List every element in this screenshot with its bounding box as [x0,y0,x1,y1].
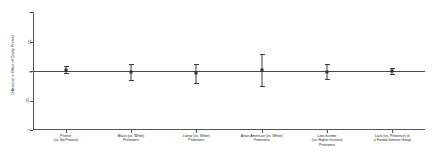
x-axis-category-label-line: Protesters [290,143,364,147]
x-axis-category-label: Lack (vs. Presence) ofa Formal Interest … [355,134,429,143]
x-tick-mark [327,130,328,133]
error-bar-cap-lower [390,74,395,75]
x-axis-category-label: Low-Income(vs. Higher Income)Protesters [290,134,364,147]
y-tick-label: 0 [29,71,33,73]
x-tick-mark [262,130,263,133]
x-tick-mark [66,130,67,133]
x-tick-mark [392,130,393,133]
estimate-marker [260,69,263,72]
error-bar-cap-upper [325,64,330,65]
x-axis-category-label-line: a Formal Interest Group [355,138,429,142]
x-axis-line [33,129,425,130]
x-axis-category-label: Protest(vs. No Protest) [29,134,103,143]
y-tick-label: .1 [28,11,32,14]
x-tick-mark [131,130,132,133]
y-tick-label: -.05 [26,98,30,104]
error-bar-cap-upper [260,54,265,55]
x-axis-category-label-line: (vs. No Protest) [29,138,103,142]
zero-reference-line [33,71,425,72]
error-bar-cap-lower [194,83,199,84]
y-tick-mark [30,101,33,102]
x-tick-mark [196,130,197,133]
error-bar-cap-upper [64,66,69,67]
coefficient-plot-figure: Difference in Effect of Costly Protest .… [0,0,432,161]
x-axis-category-label: Latino (vs. White)Protesters [159,134,233,143]
error-bar-cap-lower [260,86,265,87]
estimate-marker [326,70,329,73]
error-bar-cap-lower [64,73,69,74]
y-tick-label: -.1 [27,128,31,132]
error-bar-cap-lower [129,80,134,81]
x-axis-category-label: Asian American (vs. White)Protesters [225,134,299,143]
plot-area: .1.050-.05-.1 [33,12,425,130]
y-axis-title: Difference in Effect of Costly Protest [11,5,15,125]
x-axis-category-label-line: Protesters [94,138,168,142]
y-tick-label: .05 [27,40,31,45]
error-bar-cap-lower [325,79,330,80]
error-bar-cap-upper [194,64,199,65]
x-axis-category-label-line: Protesters [159,138,233,142]
estimate-marker [64,68,67,71]
estimate-marker [391,70,394,73]
x-axis-category-label-line: Protesters [225,138,299,142]
estimate-marker [195,72,198,75]
x-axis-category-label: Black (vs. White)Protesters [94,134,168,143]
estimate-marker [130,71,133,74]
error-bar-cap-upper [129,64,134,65]
